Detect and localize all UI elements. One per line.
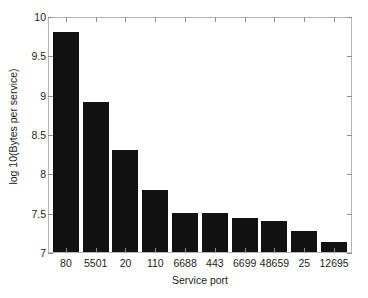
bar bbox=[112, 150, 138, 252]
x-tick-mark-top bbox=[304, 17, 305, 22]
bar bbox=[232, 218, 258, 252]
x-tick-mark-top bbox=[215, 17, 216, 22]
plot-area bbox=[48, 17, 352, 253]
x-tick-mark-top bbox=[155, 17, 156, 22]
x-tick-mark bbox=[304, 248, 305, 253]
x-tick-mark-top bbox=[245, 17, 246, 22]
x-tick-mark-top bbox=[334, 17, 335, 22]
x-tick-mark bbox=[66, 248, 67, 253]
y-tick-label: 8 bbox=[0, 168, 46, 180]
y-tick-mark-right bbox=[347, 96, 352, 97]
x-tick-mark bbox=[125, 248, 126, 253]
x-tick-mark-top bbox=[66, 17, 67, 22]
bar bbox=[53, 32, 79, 252]
x-tick-mark bbox=[155, 248, 156, 253]
y-tick-mark-right bbox=[347, 56, 352, 57]
x-tick-mark bbox=[334, 248, 335, 253]
x-tick-mark-top bbox=[185, 17, 186, 22]
x-tick-label: 12695 bbox=[306, 257, 362, 269]
y-tick-mark-right bbox=[347, 214, 352, 215]
y-tick-mark bbox=[48, 253, 53, 254]
bar bbox=[202, 213, 228, 252]
y-tick-label: 7.5 bbox=[0, 208, 46, 220]
y-tick-label: 9 bbox=[0, 90, 46, 102]
y-tick-mark-right bbox=[347, 174, 352, 175]
y-tick-mark bbox=[48, 214, 53, 215]
y-tick-mark bbox=[48, 96, 53, 97]
y-tick-label: 9.5 bbox=[0, 50, 46, 62]
x-tick-mark-top bbox=[96, 17, 97, 22]
x-tick-mark bbox=[245, 248, 246, 253]
y-tick-mark-right bbox=[347, 17, 352, 18]
y-tick-mark bbox=[48, 56, 53, 57]
bar bbox=[83, 102, 109, 252]
x-tick-mark bbox=[96, 248, 97, 253]
x-tick-mark bbox=[185, 248, 186, 253]
y-tick-label: 10 bbox=[0, 11, 46, 23]
bar bbox=[142, 190, 168, 252]
x-axis-title: Service port bbox=[48, 274, 352, 286]
y-tick-mark bbox=[48, 17, 53, 18]
y-tick-mark bbox=[48, 174, 53, 175]
x-tick-mark bbox=[274, 248, 275, 253]
y-tick-mark-right bbox=[347, 135, 352, 136]
x-tick-mark-top bbox=[274, 17, 275, 22]
y-tick-label: 8.5 bbox=[0, 129, 46, 141]
bar-chart-figure: log 10(Bytes per service) 77.588.599.510… bbox=[0, 0, 368, 298]
bar-series bbox=[49, 18, 351, 252]
bar bbox=[172, 213, 198, 252]
y-tick-mark-right bbox=[347, 253, 352, 254]
y-tick-mark bbox=[48, 135, 53, 136]
x-tick-mark bbox=[215, 248, 216, 253]
x-tick-mark-top bbox=[125, 17, 126, 22]
